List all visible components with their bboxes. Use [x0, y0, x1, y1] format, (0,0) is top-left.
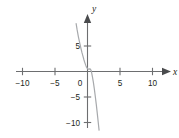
graph-figure: −10 −5 5 10 0 5 −5 −10 x y	[0, 0, 179, 138]
y-tick-label--10: −10	[66, 119, 80, 128]
y-axis-arrowhead	[84, 14, 91, 23]
x-tick-label--10: −10	[16, 79, 30, 88]
y-tick-label--5: −5	[71, 93, 81, 102]
x-axis-label: x	[172, 67, 178, 77]
coordinate-plane: −10 −5 5 10 0 5 −5 −10 x y	[0, 0, 179, 138]
x-axis-arrowhead	[162, 68, 171, 75]
x-tick-label--5: −5	[50, 79, 60, 88]
x-tick-label-5: 5	[118, 79, 123, 88]
y-axis-label: y	[91, 4, 97, 14]
origin-label: 0	[78, 79, 83, 88]
x-tick-label-10: 10	[148, 79, 158, 88]
